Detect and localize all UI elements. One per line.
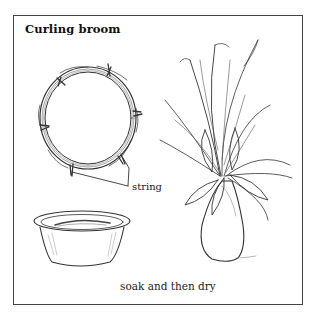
soaking-bowl-icon [34, 211, 130, 266]
illustration [0, 0, 315, 318]
figure-caption: soak and then dry [120, 280, 216, 292]
vase-with-plumes-icon [160, 40, 292, 261]
string-label: string [132, 181, 162, 192]
broom-ring-icon [38, 64, 142, 186]
